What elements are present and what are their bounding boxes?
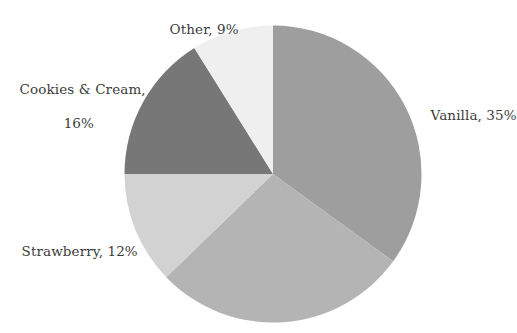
- pie-label-cookies-and-cream-line2: 16%: [64, 115, 94, 131]
- pie-label-vanilla: Vanilla, 35%: [413, 90, 517, 141]
- pie-slice-group: [125, 25, 422, 322]
- pie-label-strawberry-text: Strawberry, 12%: [22, 243, 138, 259]
- pie-label-other-text: Other, 9%: [170, 21, 239, 37]
- pie-label-cookies-and-cream-line1: Cookies & Cream,: [20, 81, 146, 97]
- pie-label-vanilla-text: Vanilla, 35%: [431, 107, 517, 123]
- pie-label-cookies-and-cream: Cookies & Cream, 16%: [2, 64, 138, 149]
- pie-label-strawberry: Strawberry, 12%: [4, 226, 138, 277]
- pie-label-other: Other, 9%: [152, 4, 239, 55]
